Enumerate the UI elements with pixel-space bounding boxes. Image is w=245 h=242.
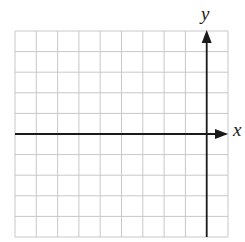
coordinate-plane (0, 0, 245, 242)
y-axis-label: y (201, 4, 209, 23)
x-axis-arrow-icon (215, 129, 228, 139)
y-axis-arrow-icon (202, 30, 212, 43)
x-axis-label: x (233, 120, 241, 139)
